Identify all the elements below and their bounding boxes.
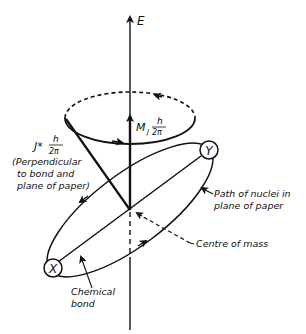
path-label-line2: plane of paper: [213, 200, 284, 211]
j-numerator: h: [53, 134, 59, 144]
j-note-line2: to bond and: [17, 168, 75, 179]
nucleus-x: X: [44, 259, 62, 277]
com-label: Centre of mass: [196, 238, 268, 249]
mj-numerator: h: [157, 116, 163, 126]
rotational-angular-momentum-diagram: X Y E M J h 2π J* h 2π (Perpendicular to…: [0, 0, 306, 334]
mj-denominator: 2π: [152, 128, 162, 137]
nucleus-y: Y: [200, 141, 218, 159]
energy-axis-label: E: [137, 14, 145, 28]
com-leader: [138, 214, 190, 243]
mj-label: M: [136, 121, 146, 134]
bond-label-line1: Chemical: [71, 286, 115, 297]
j-note-line3: plane of paper): [16, 180, 90, 191]
j-label: J*: [32, 140, 43, 153]
j-note-line1: (Perpendicular: [12, 156, 82, 167]
nucleus-x-label: X: [48, 262, 58, 276]
j-denominator: 2π: [49, 147, 59, 156]
path-label-line1: Path of nuclei in: [214, 188, 291, 199]
bond-label-line2: bond: [71, 298, 96, 309]
mj-subscript: J: [145, 128, 149, 136]
com-label-dash: [190, 243, 194, 244]
precession-front-arrow: [112, 141, 122, 143]
path-label-leader: [202, 188, 213, 194]
